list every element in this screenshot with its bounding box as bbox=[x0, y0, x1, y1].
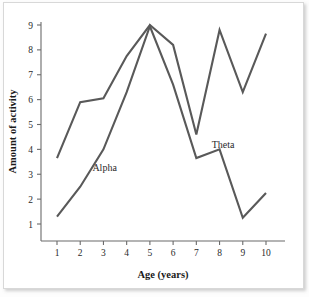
y-axis-title: Amount of activity bbox=[7, 89, 18, 174]
y-axis-ticks bbox=[37, 25, 41, 224]
data-series-group bbox=[57, 25, 266, 218]
y-tick-label: 7 bbox=[28, 70, 33, 80]
x-axis-title: Age (years) bbox=[137, 269, 189, 281]
x-tick-label: 2 bbox=[78, 248, 83, 258]
y-tick-label: 1 bbox=[28, 220, 33, 230]
chart-figure: 123456789 12345678910 AlphaTheta Age (ye… bbox=[0, 0, 309, 297]
x-tick-label: 9 bbox=[240, 248, 245, 258]
y-axis-tick-labels: 123456789 bbox=[28, 21, 33, 230]
y-tick-label: 3 bbox=[28, 170, 33, 180]
series-label-theta: Theta bbox=[212, 139, 235, 150]
x-tick-label: 7 bbox=[194, 248, 199, 258]
x-tick-label: 8 bbox=[217, 248, 222, 258]
x-axis-tick-labels: 12345678910 bbox=[55, 248, 271, 258]
data-line-theta bbox=[57, 25, 266, 158]
x-tick-label: 10 bbox=[261, 248, 271, 258]
x-tick-label: 3 bbox=[101, 248, 106, 258]
x-tick-label: 1 bbox=[55, 248, 60, 258]
x-axis-ticks bbox=[57, 241, 266, 245]
y-tick-label: 8 bbox=[28, 45, 33, 55]
y-tick-label: 4 bbox=[28, 145, 33, 155]
x-tick-label: 5 bbox=[148, 248, 153, 258]
x-tick-label: 6 bbox=[171, 248, 176, 258]
y-tick-label: 2 bbox=[28, 195, 33, 205]
series-annotations-group: AlphaTheta bbox=[92, 139, 235, 172]
series-label-alpha: Alpha bbox=[92, 162, 117, 173]
data-line-alpha bbox=[57, 26, 266, 218]
y-tick-label: 6 bbox=[28, 95, 33, 105]
y-tick-label: 9 bbox=[28, 21, 33, 31]
x-tick-label: 4 bbox=[124, 248, 129, 258]
line-chart: 123456789 12345678910 AlphaTheta Age (ye… bbox=[0, 0, 309, 297]
y-tick-label: 5 bbox=[28, 120, 33, 130]
